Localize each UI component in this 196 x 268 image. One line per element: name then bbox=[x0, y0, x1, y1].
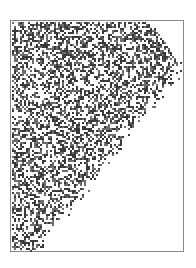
automaton-pattern bbox=[0, 0, 196, 268]
